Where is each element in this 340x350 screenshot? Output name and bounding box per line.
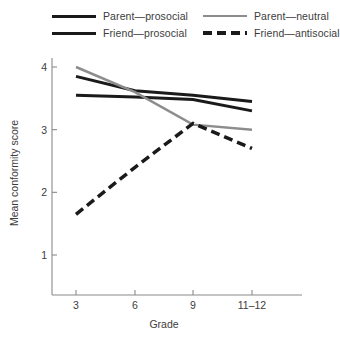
legend-swatch-friend-prosocial — [52, 28, 96, 38]
legend-item-friend-prosocial: Friend—prosocial — [52, 27, 187, 39]
y-axis-title: Mean conformity score — [8, 120, 20, 226]
legend-swatch-parent-neutral — [203, 11, 247, 21]
y-tick-label: 1 — [41, 249, 47, 261]
x-tick-label: 9 — [190, 299, 196, 311]
legend-swatch-parent-prosocial — [52, 11, 96, 21]
x-axis-title: Grade — [149, 318, 178, 330]
legend-item-parent-neutral: Parent—neutral — [203, 10, 329, 22]
y-axis-ticks: 1234 — [41, 61, 57, 261]
data-series-group — [76, 67, 252, 214]
x-tick-label: 3 — [73, 299, 79, 311]
legend-label-parent-neutral: Parent—neutral — [254, 10, 329, 22]
legend-item-friend-antisocial: Friend—antisocial — [203, 27, 340, 39]
chart-legend: Parent—prosocial Friend—prosocial Parent… — [0, 0, 332, 48]
legend-item-parent-prosocial: Parent—prosocial — [52, 10, 188, 22]
x-tick-label: 11–12 — [238, 299, 267, 311]
line-chart-svg: 1234 36911–12 Grade Mean conformity scor… — [0, 48, 332, 350]
legend-label-friend-prosocial: Friend—prosocial — [103, 27, 187, 39]
x-axis-ticks: 36911–12 — [73, 290, 266, 311]
chart-plot-area: 1234 36911–12 Grade Mean conformity scor… — [0, 48, 332, 350]
y-tick-label: 3 — [41, 124, 47, 136]
y-tick-label: 4 — [41, 61, 47, 73]
y-tick-label: 2 — [41, 186, 47, 198]
series-line-friend-antisocial — [76, 123, 252, 214]
x-tick-label: 6 — [132, 299, 138, 311]
legend-label-friend-antisocial: Friend—antisocial — [254, 27, 340, 39]
legend-label-parent-prosocial: Parent—prosocial — [103, 10, 188, 22]
legend-swatch-friend-antisocial — [203, 28, 247, 38]
